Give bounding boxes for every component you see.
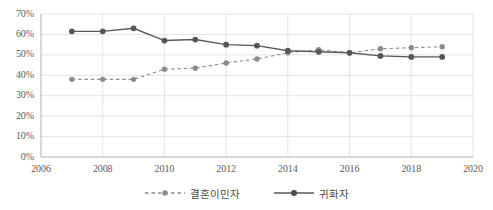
- data-point: [347, 50, 353, 56]
- data-point: [162, 38, 168, 44]
- series-lines: [72, 28, 442, 79]
- data-point: [223, 42, 229, 48]
- data-point: [316, 49, 322, 55]
- y-tick-label: 70%: [0, 8, 34, 19]
- legend-item-marriage-immigrant: 결혼이민자: [145, 186, 240, 201]
- data-point: [100, 77, 105, 82]
- x-tick-label: 2020: [451, 163, 493, 174]
- y-tick-label: 60%: [0, 28, 34, 39]
- y-tick-label: 40%: [0, 69, 34, 80]
- line-chart: 0%10%20%30%40%50%60%70% 2006200820102012…: [0, 0, 493, 210]
- gridlines: [41, 14, 473, 157]
- data-point: [162, 66, 167, 71]
- y-tick-label: 20%: [0, 110, 34, 121]
- data-point: [193, 65, 198, 70]
- data-point: [131, 77, 136, 82]
- legend-label-naturalized: 귀화자: [319, 186, 349, 201]
- y-tick-label: 50%: [0, 48, 34, 59]
- chart-legend: 결혼이민자 귀화자: [0, 182, 493, 204]
- x-tick-label: 2006: [19, 163, 63, 174]
- legend-swatch-solid-icon: [274, 188, 314, 198]
- data-point: [408, 54, 414, 60]
- data-point: [131, 25, 137, 31]
- legend-swatch-dashed-icon: [145, 188, 185, 198]
- series-line-2: [72, 28, 442, 57]
- series-markers: [69, 25, 445, 82]
- data-point: [285, 48, 291, 54]
- chart-plot-area: [0, 0, 493, 210]
- x-tick-label: 2010: [142, 163, 186, 174]
- axis-lines: [41, 14, 473, 157]
- data-point: [409, 45, 414, 50]
- y-tick-label: 10%: [0, 130, 34, 141]
- data-point: [223, 60, 228, 65]
- x-tick-label: 2008: [81, 163, 125, 174]
- data-point: [254, 43, 260, 49]
- x-tick-label: 2018: [389, 163, 433, 174]
- data-point: [439, 44, 444, 49]
- data-point: [69, 28, 75, 34]
- legend-item-naturalized: 귀화자: [274, 186, 349, 201]
- x-tick-label: 2016: [328, 163, 372, 174]
- data-point: [378, 53, 384, 59]
- data-point: [439, 54, 445, 60]
- data-point: [69, 77, 74, 82]
- y-tick-label: 0%: [0, 151, 34, 162]
- x-tick-label: 2012: [204, 163, 248, 174]
- data-point: [192, 37, 198, 43]
- data-point: [100, 28, 106, 34]
- series-line-1: [72, 47, 442, 80]
- x-tick-label: 2014: [266, 163, 310, 174]
- data-point: [378, 46, 383, 51]
- legend-label-marriage-immigrant: 결혼이민자: [190, 186, 240, 201]
- y-tick-label: 30%: [0, 89, 34, 100]
- data-point: [254, 56, 259, 61]
